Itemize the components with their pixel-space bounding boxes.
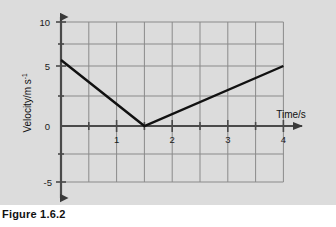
y-tick-label-10: 10 [39,17,50,28]
grid-vertical [89,22,284,182]
y-tick-label-0: 0 [45,121,50,132]
y-tick-label-5: 5 [45,61,50,72]
figure-container: 10 5 0 -5 1 2 3 4 Time/s Velocity/m s-1 … [0,0,336,227]
x-tick-label-2: 2 [170,134,175,145]
figure-caption: Figure 1.6.2 [2,208,66,220]
x-tick-label-4: 4 [281,134,286,145]
y-axis-title-superscript: -1 [21,73,28,79]
x-axis-title: Time/s [276,109,306,120]
plot-panel: 10 5 0 -5 1 2 3 4 Time/s Velocity/m s-1 [0,0,336,205]
y-axis-title-group: Velocity/m s-1 [21,73,33,133]
x-tick-label-3: 3 [225,134,230,145]
x-tick-label-1: 1 [114,134,119,145]
velocity-time-chart: 10 5 0 -5 1 2 3 4 Time/s Velocity/m s-1 [0,0,336,205]
y-tick-label-neg5: -5 [44,177,52,188]
y-axis-title: Velocity/m s-1 [21,73,33,133]
y-axis-title-text: Velocity/m s [22,79,33,132]
